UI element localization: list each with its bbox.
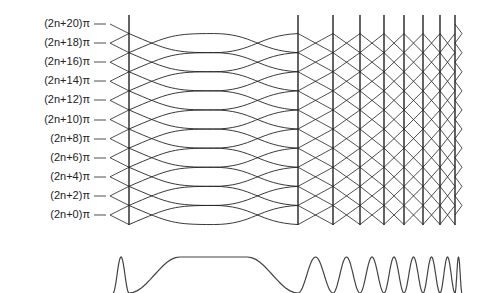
phase-line [110, 177, 129, 187]
phase-line [455, 91, 462, 101]
phase-line [455, 34, 462, 44]
phase-line [455, 72, 462, 82]
phase-line [110, 62, 129, 72]
phase-line [455, 24, 462, 34]
phase-line [110, 186, 129, 196]
phase-curve [129, 148, 298, 167]
phase-line [110, 43, 129, 53]
phase-curve [129, 129, 298, 148]
phase-curve [129, 186, 298, 205]
phase-line [455, 196, 462, 206]
phase-curve [129, 167, 298, 186]
phase-curve [129, 129, 298, 148]
phase-curve [129, 53, 298, 72]
phase-line [110, 205, 129, 215]
phase-line [110, 139, 129, 149]
phase-line [455, 139, 462, 149]
phase-line [455, 100, 462, 110]
phase-line [455, 120, 462, 130]
phase-line [110, 34, 129, 44]
phase-line [455, 53, 462, 63]
phase-curve [129, 167, 298, 186]
phase-line [455, 177, 462, 187]
phase-line [455, 186, 462, 196]
phase-curve [129, 34, 298, 53]
phase-line [110, 158, 129, 168]
phase-curve [129, 110, 298, 129]
phase-curve [129, 72, 298, 91]
phase-line [455, 148, 462, 158]
phase-line [110, 91, 129, 101]
phase-curve [129, 91, 298, 110]
phase-line [110, 167, 129, 177]
phase-line [110, 110, 129, 120]
phase-line [455, 43, 462, 53]
phase-line [455, 81, 462, 91]
phase-line [455, 110, 462, 120]
waveform-curve [113, 257, 462, 293]
phase-line [455, 167, 462, 177]
phase-curve [129, 72, 298, 91]
phase-curve [129, 186, 298, 205]
phase-curve [129, 148, 298, 167]
phase-line [455, 158, 462, 168]
phase-line [110, 81, 129, 91]
phase-line [110, 72, 129, 82]
phase-line [110, 100, 129, 110]
phase-line [455, 62, 462, 72]
phase-curve [129, 205, 298, 224]
phase-line [110, 120, 129, 130]
phase-line [110, 53, 129, 63]
phase-curve [129, 53, 298, 72]
phase-curve [129, 34, 298, 53]
phase-line [455, 205, 462, 215]
phase-line [110, 129, 129, 139]
phase-curve [129, 110, 298, 129]
phase-curve [129, 91, 298, 110]
phase-line [110, 215, 129, 225]
phase-line [110, 148, 129, 158]
phase-line [110, 24, 129, 34]
phase-line [455, 129, 462, 139]
phase-curve [129, 205, 298, 224]
phase-diagram [0, 0, 489, 293]
phase-line [110, 196, 129, 206]
